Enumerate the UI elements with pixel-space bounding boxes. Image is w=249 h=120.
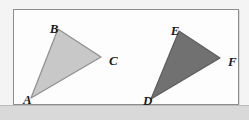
vertex-label-e: E: [170, 23, 180, 38]
vertex-label-c: C: [109, 53, 118, 68]
geometry-figure: B C A E F D: [14, 10, 240, 106]
triangle-abc-shape: [31, 29, 101, 98]
vertex-label-b: B: [49, 21, 59, 36]
figure-screenshot: B C A E F D: [0, 0, 249, 120]
vertex-label-f: F: [227, 54, 237, 69]
triangle-def-shape: [151, 31, 220, 99]
page-bottom-strip: [0, 105, 249, 120]
figure-border-box: B C A E F D: [13, 9, 239, 105]
vertex-label-a: A: [22, 92, 32, 106]
